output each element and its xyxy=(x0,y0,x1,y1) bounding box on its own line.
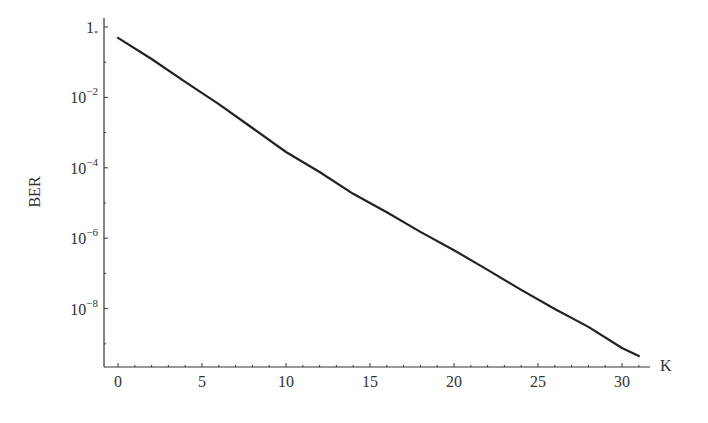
y-tick-label: 10−2 xyxy=(70,85,98,106)
ber-curve xyxy=(118,38,639,356)
y-tick-label: 10−6 xyxy=(70,226,98,247)
y-tick-label: 10−8 xyxy=(70,297,98,318)
y-tick-label: 10−4 xyxy=(70,156,98,177)
x-tick-label: 5 xyxy=(198,373,206,390)
ber-vs-k-chart: 051015202530 1.10−210−410−610−8 K BER xyxy=(0,0,708,423)
axes xyxy=(104,18,650,367)
y-tick-label: 1. xyxy=(86,19,98,36)
x-tick-label: 20 xyxy=(446,373,462,390)
x-tick-label: 15 xyxy=(362,373,378,390)
x-tick-label: 10 xyxy=(278,373,294,390)
x-tick-label: 25 xyxy=(530,373,546,390)
y-ticks: 1.10−210−410−610−8 xyxy=(70,19,108,344)
x-tick-label: 0 xyxy=(114,373,122,390)
x-axis-label: K xyxy=(660,357,672,374)
y-axis-label: BER xyxy=(26,176,43,207)
x-tick-label: 30 xyxy=(614,373,630,390)
